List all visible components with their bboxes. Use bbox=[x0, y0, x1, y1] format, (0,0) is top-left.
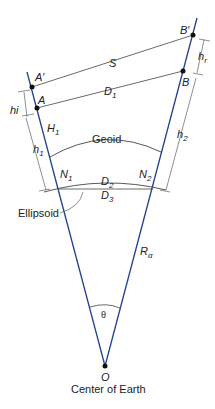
h2-tick-bottom bbox=[160, 190, 170, 192]
label-s: S bbox=[109, 57, 117, 69]
point-b-prime bbox=[191, 33, 196, 38]
label-b: B bbox=[182, 76, 189, 88]
label-h2: h2 bbox=[177, 128, 188, 143]
label-a: A bbox=[37, 94, 45, 106]
point-b bbox=[181, 69, 186, 74]
theta-arc bbox=[90, 305, 120, 308]
point-a bbox=[35, 106, 40, 111]
label-d2: D2 bbox=[101, 175, 114, 190]
label-a-prime: A′ bbox=[34, 71, 45, 83]
label-b-prime: B′ bbox=[180, 24, 190, 36]
label-hi: hi bbox=[10, 104, 19, 116]
label-h1-lower: h1 bbox=[33, 143, 44, 158]
label-d1: D1 bbox=[104, 85, 116, 100]
label-d3: D3 bbox=[101, 189, 114, 204]
hr-tick-bottom bbox=[193, 73, 203, 75]
label-h1-upper: H1 bbox=[47, 122, 59, 137]
hi-tick-top bbox=[18, 90, 30, 92]
label-theta: θ bbox=[101, 310, 106, 320]
hr-tick-top bbox=[199, 39, 210, 41]
hi-tick-bottom bbox=[22, 114, 34, 116]
label-o: O bbox=[101, 371, 110, 383]
left-radial-line bbox=[27, 72, 105, 366]
point-a-prime bbox=[30, 85, 35, 90]
label-center-of-earth: Center of Earth bbox=[71, 383, 146, 395]
point-o bbox=[103, 364, 108, 369]
label-n1: N1 bbox=[60, 168, 72, 183]
label-ellipsoid: Ellipsoid bbox=[18, 207, 59, 219]
label-r-alpha: Rα bbox=[140, 245, 153, 260]
geodetic-distance-diagram: A′ A B′ B S D1 hi H1 h1 hr h2 Geoid N1 N… bbox=[0, 0, 215, 409]
label-n2: N2 bbox=[139, 168, 152, 183]
label-geoid: Geoid bbox=[92, 133, 121, 145]
hi-dimension bbox=[24, 92, 27, 117]
